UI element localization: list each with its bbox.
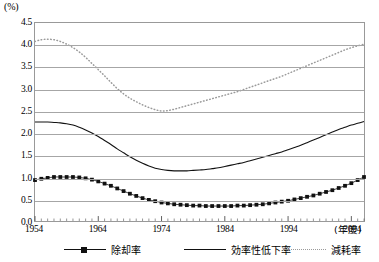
series-solid xyxy=(35,122,364,171)
data-point-marker xyxy=(349,181,353,185)
data-point-marker xyxy=(179,203,183,207)
legend-swatch xyxy=(184,245,226,255)
data-point-marker xyxy=(324,190,328,194)
gridline xyxy=(35,201,364,202)
legend-item[interactable]: 効率性低下率 xyxy=(184,243,291,257)
data-point-marker xyxy=(198,204,202,208)
x-axis-unit-label: (年度) xyxy=(334,224,361,235)
data-point-marker xyxy=(191,204,195,208)
data-point-marker xyxy=(204,204,208,208)
legend-swatch xyxy=(284,245,326,255)
series-marker-line xyxy=(33,175,366,208)
series-dotted xyxy=(35,39,364,111)
chart-root: (%) 4.54.03.53.02.52.01.51.00.50.0 19541… xyxy=(0,0,379,262)
legend-label: 効率性低下率 xyxy=(231,245,291,256)
y-axis-unit-label: (%) xyxy=(4,1,18,12)
gridline xyxy=(35,67,364,68)
data-point-marker xyxy=(217,204,221,208)
legend-line-sample xyxy=(184,249,226,250)
data-point-marker xyxy=(109,184,113,188)
data-point-marker xyxy=(210,204,214,208)
gridline xyxy=(35,179,364,180)
x-axis-tick-label: 1984 xyxy=(216,224,234,235)
data-point-marker xyxy=(172,202,176,206)
data-point-marker xyxy=(343,184,347,188)
y-axis-tick-label: 4.0 xyxy=(2,39,32,49)
data-point-marker xyxy=(134,194,138,198)
data-point-marker xyxy=(311,194,315,198)
x-axis-tick-labels: 195419641974198419942004 xyxy=(34,224,365,240)
data-point-marker xyxy=(248,203,252,207)
data-point-marker xyxy=(267,202,271,206)
data-point-marker xyxy=(96,180,100,184)
data-point-marker xyxy=(122,189,126,193)
data-point-marker xyxy=(141,196,145,200)
y-axis-tick-label: 1.0 xyxy=(2,173,32,183)
data-point-marker xyxy=(242,204,246,208)
gridline xyxy=(35,90,364,91)
y-axis-tick-label: 0.5 xyxy=(2,195,32,205)
y-axis-tick-labels: 4.54.03.53.02.52.01.51.00.50.0 xyxy=(0,22,32,222)
data-point-marker xyxy=(261,202,265,206)
legend-swatch xyxy=(64,245,106,255)
plot-area xyxy=(34,22,365,222)
legend-marker-sample xyxy=(81,247,87,253)
data-point-marker xyxy=(166,202,170,206)
data-point-marker xyxy=(229,204,233,208)
gridline xyxy=(35,45,364,46)
data-point-marker xyxy=(299,196,303,200)
y-axis-tick-label: 3.5 xyxy=(2,61,32,71)
data-point-marker xyxy=(305,195,309,199)
legend-item[interactable]: 減耗率 xyxy=(284,243,361,257)
data-point-marker xyxy=(115,187,119,191)
y-axis-tick-label: 2.0 xyxy=(2,128,32,138)
x-axis-tick-label: 1994 xyxy=(280,224,298,235)
x-axis-tick-label: 1964 xyxy=(89,224,107,235)
data-point-marker xyxy=(223,204,227,208)
legend-item[interactable]: 除却率 xyxy=(64,243,141,257)
data-point-marker xyxy=(330,188,334,192)
data-point-marker xyxy=(185,203,189,207)
series-line xyxy=(35,39,364,111)
data-point-marker xyxy=(236,204,240,208)
series-layer xyxy=(35,23,364,221)
y-axis-tick-label: 2.5 xyxy=(2,106,32,116)
gridline xyxy=(35,134,364,135)
series-line xyxy=(35,122,364,171)
data-point-marker xyxy=(255,203,259,207)
x-axis-tick-label: 1954 xyxy=(25,224,43,235)
data-point-marker xyxy=(103,182,107,186)
y-axis-tick-label: 4.5 xyxy=(2,17,32,27)
chart-legend: 除却率効率性低下率減耗率 xyxy=(34,243,365,259)
data-point-marker xyxy=(318,192,322,196)
x-axis-tick-label: 1974 xyxy=(152,224,170,235)
data-point-marker xyxy=(337,186,341,190)
legend-label: 減耗率 xyxy=(331,245,361,256)
data-point-marker xyxy=(128,192,132,196)
gridline xyxy=(35,112,364,113)
y-axis-tick-label: 3.0 xyxy=(2,84,32,94)
legend-label: 除却率 xyxy=(111,245,141,256)
gridline xyxy=(35,156,364,157)
legend-line-sample xyxy=(284,249,326,250)
y-axis-tick-label: 1.5 xyxy=(2,150,32,160)
